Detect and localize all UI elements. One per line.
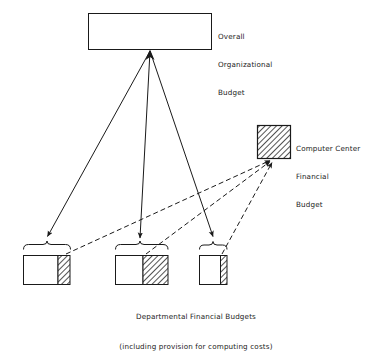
computing-cost-arrow-1: [66, 161, 270, 255]
caption-line-2: (including provision for computing costs…: [0, 341, 392, 352]
label-overall-line-3: Budget: [218, 88, 272, 97]
brace-3: [200, 242, 228, 250]
departmental-budget-3-computing-share: [221, 256, 228, 285]
computing-cost-arrow-3: [222, 163, 272, 255]
label-computer-center-financial-budget: Computer Center Financial Budget: [296, 125, 360, 228]
departmental-budget-1: [24, 256, 71, 285]
label-cc-line-1: Computer Center: [296, 144, 360, 153]
label-overall-line-1: Overall: [218, 32, 272, 41]
allocation-arrow-3: [150, 51, 213, 237]
allocation-arrow-2: [140, 51, 150, 238]
brace-2: [116, 241, 169, 250]
computing-cost-arrow-2: [146, 162, 270, 255]
label-overall-organizational-budget: Overall Organizational Budget: [218, 13, 272, 116]
departmental-budget-1-plain: [24, 256, 59, 285]
label-cc-line-2: Financial: [296, 172, 360, 181]
label-cc-line-3: Budget: [296, 200, 360, 209]
brace-1: [24, 241, 71, 250]
allocation-arrow-1: [48, 51, 151, 237]
node-computer-center-financial-budget: [258, 126, 291, 159]
departmental-budget-3-plain: [200, 256, 221, 285]
caption-line-1: Departmental Financial Budgets: [0, 311, 392, 322]
caption-departmental-financial-budgets: Departmental Financial Budgets (includin…: [0, 292, 392, 355]
node-overall-organizational-budget: [89, 14, 212, 50]
departmental-budget-2-computing-share: [143, 256, 168, 285]
label-overall-line-2: Organizational: [218, 60, 272, 69]
departmental-budget-1-computing-share: [58, 256, 70, 285]
departmental-budget-2-plain: [116, 256, 144, 285]
departmental-budget-2: [116, 256, 169, 285]
departmental-budget-3: [200, 256, 228, 285]
